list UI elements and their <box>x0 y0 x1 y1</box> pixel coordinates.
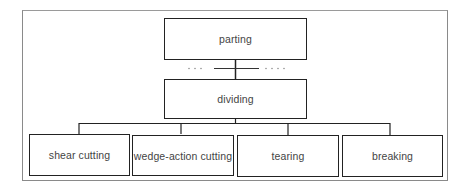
dots-right <box>265 68 284 69</box>
node-shear-cutting: shear cutting <box>29 134 130 176</box>
node-wedge-action-cutting: wedge-action cutting <box>132 135 234 176</box>
node-dividing: dividing <box>164 79 307 119</box>
node-breaking: breaking <box>342 135 443 177</box>
node-parting: parting <box>164 18 307 60</box>
node-label: dividing <box>217 93 253 105</box>
node-label: wedge-action cutting <box>134 150 232 162</box>
node-tearing: tearing <box>237 135 339 177</box>
dots-left <box>188 68 201 69</box>
node-label: parting <box>219 33 252 45</box>
node-label: shear cutting <box>49 149 110 161</box>
node-label: breaking <box>372 150 413 162</box>
node-label: tearing <box>272 150 305 162</box>
